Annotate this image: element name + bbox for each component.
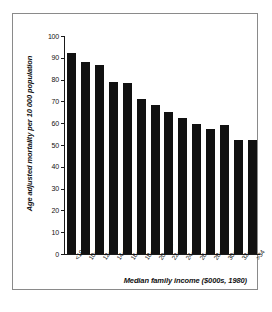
chart-frame: Age adjusted mortality per 10 000 popula… xyxy=(12,13,258,290)
y-axis-tick-label: 80 xyxy=(52,76,59,83)
bar xyxy=(67,53,76,254)
bar xyxy=(164,112,173,254)
y-axis-tick-mark xyxy=(61,189,64,190)
y-axis-tick-label: 10 xyxy=(52,229,59,236)
bar xyxy=(248,140,257,254)
y-axis-tick-mark xyxy=(61,145,64,146)
x-axis-title: Median family income ($000s, 1980) xyxy=(124,276,247,285)
bar xyxy=(109,82,118,254)
y-axis-tick-mark xyxy=(61,58,64,59)
y-axis-tick-label: 20 xyxy=(52,207,59,214)
y-axis-tick-label: 90 xyxy=(52,54,59,61)
bar xyxy=(178,118,187,254)
plot-area xyxy=(65,36,259,254)
y-axis-tick-label: 30 xyxy=(52,185,59,192)
bar xyxy=(206,129,215,254)
bar xyxy=(192,124,201,254)
bar xyxy=(81,62,90,254)
figure: Age adjusted mortality per 10 000 popula… xyxy=(0,0,272,312)
y-axis-tick-mark xyxy=(61,232,64,233)
y-axis-tick-label: 0 xyxy=(55,251,59,258)
y-axis-tick-label: 40 xyxy=(52,163,59,170)
y-axis-tick-labels: 0102030405060708090100 xyxy=(13,14,59,304)
bar xyxy=(95,65,104,254)
y-axis-tick-mark xyxy=(61,167,64,168)
y-axis-tick-mark xyxy=(61,80,64,81)
bar xyxy=(137,99,146,254)
bar xyxy=(151,105,160,254)
y-axis-tick-mark xyxy=(61,210,64,211)
bar xyxy=(123,83,132,254)
y-axis-tick-label: 60 xyxy=(52,120,59,127)
y-axis-tick-mark xyxy=(61,101,64,102)
y-axis-tick-label: 50 xyxy=(52,142,59,149)
bar xyxy=(234,140,243,254)
y-axis-tick-mark xyxy=(61,254,64,255)
y-axis-tick-label: 100 xyxy=(48,33,59,40)
y-axis-tick-mark xyxy=(61,36,64,37)
y-axis-tick-mark xyxy=(61,123,64,124)
y-axis-tick-label: 70 xyxy=(52,98,59,105)
bar xyxy=(220,125,229,254)
